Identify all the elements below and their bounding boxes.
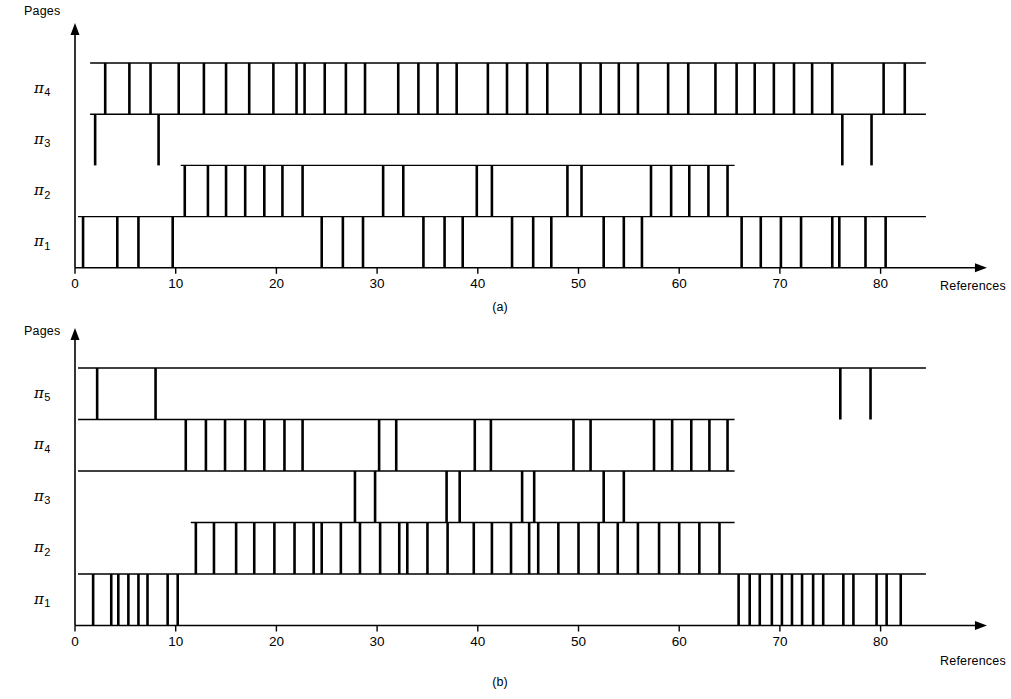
x-axis-tick-label: 70 [772, 634, 787, 649]
x-axis-tick-label: 50 [571, 276, 586, 291]
plot-area-a: Pages References 01020304050607080π4π3π2… [0, 0, 1011, 300]
pi-subscript: 1 [44, 240, 51, 252]
plot-area-b: Pages References 01020304050607080π5π4π3… [0, 320, 1011, 675]
pi-symbol: π [34, 538, 44, 556]
chart-canvas-a [0, 0, 1011, 300]
x-axis-tick-label: 20 [269, 276, 284, 291]
pi-symbol: π [34, 79, 44, 97]
page-row-label: π1 [34, 232, 50, 252]
panel-caption-a: (a) [492, 300, 507, 314]
x-axis-tick-label: 80 [873, 634, 888, 649]
x-axis-arrowhead [975, 621, 987, 630]
x-axis-tick-label: 30 [370, 634, 385, 649]
page-row-label: π4 [34, 79, 50, 99]
x-axis-arrowhead [975, 263, 987, 272]
x-axis-tick-label: 60 [672, 276, 687, 291]
x-axis-tick-label: 40 [470, 634, 485, 649]
pi-subscript: 4 [44, 443, 51, 455]
y-axis-title: Pages [24, 4, 60, 18]
pi-symbol: π [34, 232, 44, 250]
pi-subscript: 3 [44, 137, 51, 149]
pi-symbol: π [34, 384, 44, 402]
x-axis-tick-label: 30 [370, 276, 385, 291]
page-row-label: π4 [34, 435, 50, 455]
y-axis-arrowhead [71, 23, 80, 35]
figure-panel-b: Pages References 01020304050607080π5π4π3… [0, 320, 1011, 699]
page-row-label: π2 [34, 181, 50, 201]
chart-canvas-b [0, 320, 1011, 675]
x-axis-tick-label: 10 [168, 634, 183, 649]
figure-panel-a: Pages References 01020304050607080π4π3π2… [0, 0, 1011, 320]
x-axis-tick-label: 0 [71, 276, 79, 291]
page-row-label: π3 [34, 130, 50, 150]
x-axis-tick-label: 70 [772, 276, 787, 291]
pi-subscript: 2 [44, 546, 51, 558]
page-row-label: π1 [34, 590, 50, 610]
y-axis-arrowhead [71, 328, 80, 340]
pi-subscript: 5 [44, 391, 51, 403]
page-row-label: π3 [34, 487, 50, 507]
pi-subscript: 2 [44, 189, 51, 201]
x-axis-tick-label: 0 [71, 634, 79, 649]
pi-subscript: 4 [44, 86, 51, 98]
page-row-label: π5 [34, 384, 50, 404]
pi-subscript: 1 [44, 597, 51, 609]
pi-symbol: π [34, 181, 44, 199]
x-axis-tick-label: 20 [269, 634, 284, 649]
panel-caption-b: (b) [492, 675, 507, 689]
pi-subscript: 3 [44, 494, 51, 506]
pi-symbol: π [34, 487, 44, 505]
pi-symbol: π [34, 590, 44, 608]
pi-symbol: π [34, 435, 44, 453]
x-axis-title: References [940, 654, 1006, 668]
y-axis-title: Pages [24, 324, 60, 338]
x-axis-tick-label: 60 [672, 634, 687, 649]
page-row-label: π2 [34, 538, 50, 558]
x-axis-tick-label: 50 [571, 634, 586, 649]
x-axis-title: References [940, 279, 1006, 293]
pi-symbol: π [34, 130, 44, 148]
x-axis-tick-label: 80 [873, 276, 888, 291]
x-axis-tick-label: 40 [470, 276, 485, 291]
x-axis-tick-label: 10 [168, 276, 183, 291]
